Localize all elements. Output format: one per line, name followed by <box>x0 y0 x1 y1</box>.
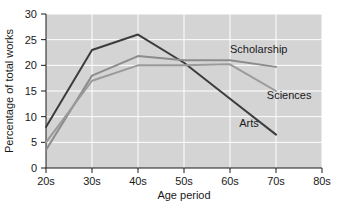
y-tick-label: 15 <box>25 85 37 97</box>
x-tick-label: 70s <box>267 175 285 187</box>
y-axis-title: Percentage of total works <box>3 28 15 153</box>
series-label-scholarship: Scholarship <box>230 43 287 55</box>
series-label-sciences: Sciences <box>267 89 312 101</box>
y-tick-label: 25 <box>25 34 37 46</box>
line-chart: 051015202530 20s30s40s50s60s70s80s Schol… <box>0 0 338 214</box>
x-tick-label: 50s <box>175 175 193 187</box>
y-tick-label: 30 <box>25 8 37 20</box>
y-tick-label: 10 <box>25 111 37 123</box>
x-tick-label: 30s <box>83 175 101 187</box>
x-tick-label: 40s <box>129 175 147 187</box>
x-tick-label: 80s <box>313 175 331 187</box>
series-label-arts: Arts <box>239 117 259 129</box>
y-tick-label: 5 <box>31 136 37 148</box>
y-tick-label: 0 <box>31 162 37 174</box>
chart-container: 051015202530 20s30s40s50s60s70s80s Schol… <box>0 0 338 214</box>
x-tick-label: 20s <box>37 175 55 187</box>
x-tick-label: 60s <box>221 175 239 187</box>
x-axis-title: Age period <box>157 189 210 201</box>
y-tick-label: 20 <box>25 59 37 71</box>
